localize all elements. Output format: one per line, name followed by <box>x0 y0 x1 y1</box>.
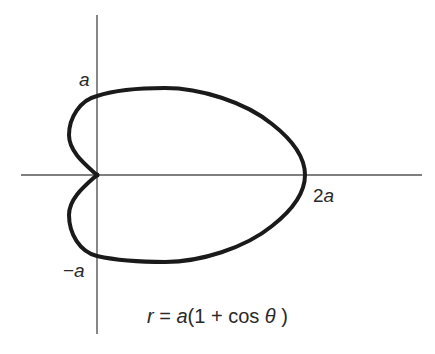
equation-caption: r = a(1 + cos θ ) <box>147 306 288 326</box>
label-var: a <box>79 69 90 90</box>
label-var: a <box>324 185 335 206</box>
origin-cusp <box>95 173 100 178</box>
eq-equals: = <box>154 305 177 327</box>
minus-sign: − <box>63 260 74 281</box>
label-var: a <box>74 260 85 281</box>
eq-open: (1 + cos <box>188 305 265 327</box>
label-y-negative-a: −a <box>63 261 85 280</box>
label-coef: 2 <box>313 185 324 206</box>
eq-r: r <box>147 305 154 327</box>
label-x-2a: 2a <box>313 186 334 205</box>
eq-theta: θ <box>265 305 276 327</box>
cardioid-figure <box>0 0 435 354</box>
eq-a: a <box>176 305 187 327</box>
eq-close: ) <box>276 305 288 327</box>
label-y-positive-a: a <box>79 70 90 89</box>
